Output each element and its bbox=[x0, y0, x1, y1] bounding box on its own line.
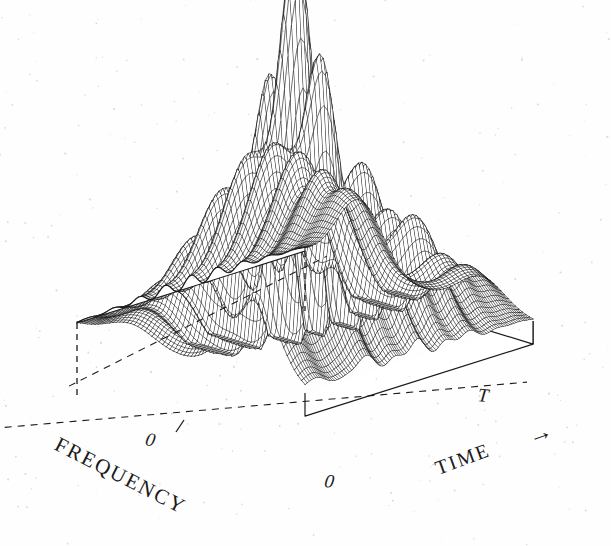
surface-mesh bbox=[77, 0, 533, 384]
frequency-zero-tick bbox=[176, 420, 184, 432]
time-end-tick-label: T bbox=[477, 384, 491, 407]
